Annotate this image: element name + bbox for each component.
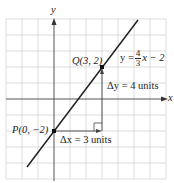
slope-denominator: 3 — [136, 59, 141, 68]
delta-x-arrowhead-icon — [96, 129, 102, 133]
delta-x-arrow — [54, 129, 102, 133]
x-axis — [6, 97, 168, 102]
equation-prefix: y = — [120, 53, 134, 64]
x-axis-label: x — [168, 93, 173, 104]
slope-fraction: 4 3 — [135, 49, 142, 68]
delta-y-label: Δy = 4 units — [107, 81, 158, 92]
coordinate-plane — [0, 0, 174, 183]
x-axis-arrow-icon — [161, 97, 168, 102]
line-equation: y = 4 3 x − 2 — [120, 49, 165, 68]
equation-suffix: x − 2 — [142, 53, 164, 64]
point-p-marker — [52, 129, 56, 133]
point-q-label: Q(3, 2) — [72, 56, 102, 67]
delta-x-label: Δx = 3 units — [60, 135, 111, 146]
y-axis-label: y — [51, 5, 56, 16]
point-p-label: P(0, −2) — [12, 125, 48, 136]
